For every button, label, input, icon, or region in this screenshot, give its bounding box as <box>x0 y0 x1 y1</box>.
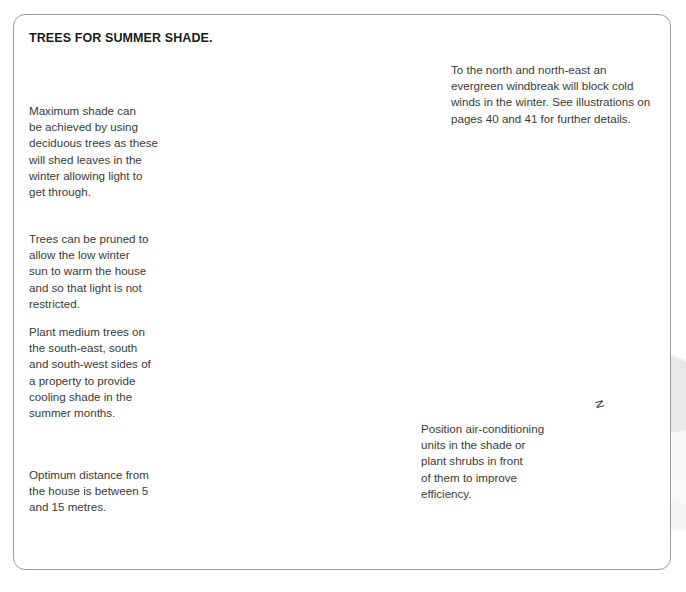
air-conditioning-line-1: Position air-conditioning <box>421 421 544 437</box>
maximum-shade-line-4: will shed leaves in the <box>29 152 158 168</box>
windbreak-line-3: winds in the winter. See illustrations o… <box>451 94 650 110</box>
medium-trees-line-4: a property to provide <box>29 373 151 389</box>
medium-trees-line-2: the south-east, south <box>29 340 151 356</box>
pruning-line-5: restricted. <box>29 296 148 312</box>
optimum-distance-line-1: Optimum distance from <box>29 467 149 483</box>
maximum-shade-line-3: deciduous trees as these <box>29 135 158 151</box>
pruning-note: Trees can be pruned to allow the low win… <box>29 231 148 312</box>
pruning-line-3: sun to warm the house <box>29 263 148 279</box>
windbreak-line-1: To the north and north-east an <box>451 62 650 78</box>
medium-trees-line-3: and south-west sides of <box>29 356 151 372</box>
maximum-shade-note: Maximum shade can be achieved by using d… <box>29 103 158 200</box>
air-conditioning-line-4: of them to improve <box>421 470 544 486</box>
pruning-line-1: Trees can be pruned to <box>29 231 148 247</box>
air-conditioning-line-5: efficiency. <box>421 486 544 502</box>
air-conditioning-line-3: plant shrubs in front <box>421 453 544 469</box>
optimum-distance-line-3: and 15 metres. <box>29 499 149 515</box>
windbreak-note: To the north and north-east an evergreen… <box>451 62 650 127</box>
medium-trees-line-1: Plant medium trees on <box>29 324 151 340</box>
page-title: TREES FOR SUMMER SHADE. <box>29 31 213 45</box>
maximum-shade-line-6: get through. <box>29 184 158 200</box>
windbreak-line-2: evergreen windbreak will block cold <box>451 78 650 94</box>
maximum-shade-line-2: be achieved by using <box>29 119 158 135</box>
windbreak-line-4: pages 40 and 41 for further details. <box>451 111 650 127</box>
maximum-shade-line-5: winter allowing light to <box>29 168 158 184</box>
air-conditioning-line-2: units in the shade or <box>421 437 544 453</box>
medium-trees-line-6: summer months. <box>29 405 151 421</box>
pruning-line-4: and so that light is not <box>29 280 148 296</box>
maximum-shade-line-1: Maximum shade can <box>29 103 158 119</box>
medium-trees-line-5: cooling shade in the <box>29 389 151 405</box>
optimum-distance-note: Optimum distance from the house is betwe… <box>29 467 149 516</box>
medium-trees-note: Plant medium trees on the south-east, so… <box>29 324 151 421</box>
optimum-distance-line-2: the house is between 5 <box>29 483 149 499</box>
pruning-line-2: allow the low winter <box>29 247 148 263</box>
air-conditioning-note: Position air-conditioning units in the s… <box>421 421 544 502</box>
